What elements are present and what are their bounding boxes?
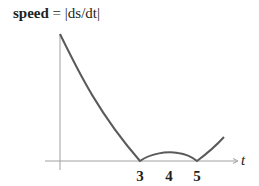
x-axis-label: t bbox=[241, 152, 245, 169]
speed-curve bbox=[60, 34, 224, 161]
x-tick-5: 5 bbox=[193, 168, 201, 185]
x-tick-3: 3 bbox=[136, 168, 144, 185]
x-tick-4: 4 bbox=[165, 168, 173, 185]
chart-plot bbox=[0, 0, 259, 186]
